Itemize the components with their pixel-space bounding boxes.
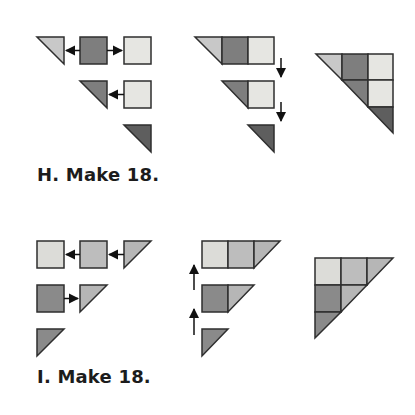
i-block-tri-2 xyxy=(341,285,367,312)
i-row1-triangle xyxy=(254,241,280,268)
h-row2-triangle xyxy=(222,81,248,108)
i-row2-triangle xyxy=(228,285,254,312)
i-layout-square-dark xyxy=(37,285,64,312)
i-block-sq-dark xyxy=(315,285,341,312)
i-layout-square-light xyxy=(37,241,64,268)
i-row2-square-dark xyxy=(202,285,228,312)
h-row3-triangle xyxy=(248,125,274,152)
h-row2-square-light xyxy=(248,81,274,108)
h-block-tri-3 xyxy=(368,107,393,133)
h-row1-square-dark xyxy=(222,37,248,64)
h-assembled-block xyxy=(316,54,393,133)
h-block-sq-light-1 xyxy=(368,54,393,80)
i-block-tri-3 xyxy=(315,312,341,338)
h-block-sq-light-2 xyxy=(368,80,393,107)
h-row1-square-light xyxy=(248,37,274,64)
h-block-tri-1 xyxy=(316,54,342,80)
i-layout-triangle-medium-2 xyxy=(80,285,107,312)
i-row1-square-light-medium xyxy=(228,241,254,268)
h-block-tri-2 xyxy=(342,80,368,107)
h-rows xyxy=(195,37,274,152)
caption-i-make-18: I. Make 18. xyxy=(37,366,151,387)
h-layout-square-light xyxy=(124,37,151,64)
caption-h-make-18: H. Make 18. xyxy=(37,164,159,185)
i-block-tri-1 xyxy=(367,258,393,285)
section-h xyxy=(37,37,393,152)
i-block-sq-light-medium xyxy=(341,258,367,285)
section-i xyxy=(37,241,393,356)
h-layout xyxy=(37,37,151,152)
i-row1-square-light xyxy=(202,241,228,268)
h-layout-triangle-darkest xyxy=(124,125,151,152)
h-row1-triangle xyxy=(195,37,222,64)
i-layout-triangle-medium xyxy=(124,241,151,268)
h-block-sq-dark xyxy=(342,54,368,80)
h-layout-triangle-light-medium xyxy=(37,37,64,64)
h-layout-triangle-dark xyxy=(80,81,107,108)
i-rows xyxy=(202,241,280,356)
i-layout xyxy=(37,241,151,356)
i-layout-square-light-medium xyxy=(80,241,107,268)
i-block-sq-light xyxy=(315,258,341,285)
quilt-assembly-diagram xyxy=(0,0,415,415)
i-layout-triangle-dark xyxy=(37,329,64,356)
h-layout-square-dark xyxy=(80,37,107,64)
i-assembled-block xyxy=(315,258,393,338)
h-layout-square-light-2 xyxy=(124,81,151,108)
i-row3-triangle xyxy=(202,329,228,356)
